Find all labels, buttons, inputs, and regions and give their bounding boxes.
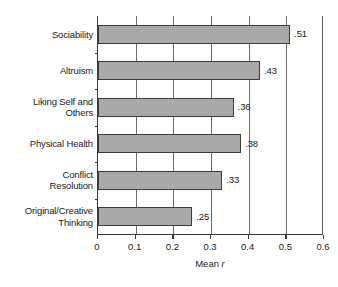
- x-axis-tick: [172, 235, 173, 239]
- bar-value-label: .36: [238, 103, 251, 113]
- bar-value-label: .33: [226, 176, 239, 186]
- category-tick: [95, 199, 99, 200]
- category-label-line: Resolution: [0, 180, 93, 192]
- scan-artifact: [0, 278, 338, 287]
- category-label-line: Others: [0, 107, 93, 119]
- category-tick: [95, 162, 99, 163]
- category-tick: [95, 89, 99, 90]
- x-axis-title: Mean r: [97, 258, 323, 269]
- category-label: Sociability: [0, 29, 93, 41]
- bar-row: .25: [98, 207, 322, 226]
- x-axis-tick: [210, 235, 211, 239]
- category-label-line: Altruism: [0, 65, 93, 77]
- x-axis-tick: [97, 235, 98, 239]
- category-label-line: Physical Health: [0, 138, 93, 150]
- x-axis-tick-label: 0: [94, 241, 99, 252]
- bar: [98, 134, 241, 153]
- x-axis-title-prefix: Mean: [195, 258, 221, 269]
- bar: [98, 207, 192, 226]
- bars-layer: .51.43.36.38.33.25: [98, 16, 322, 234]
- category-label: ConflictResolution: [0, 169, 93, 192]
- category-label-line: Original/Creative: [0, 205, 93, 217]
- x-axis-tick-label: 0.6: [316, 241, 329, 252]
- bar-chart: SociabilityAltruismLiking Self andOthers…: [0, 0, 338, 287]
- plot-area: .51.43.36.38.33.25: [97, 16, 323, 235]
- category-label-line: Liking Self and: [0, 96, 93, 108]
- x-axis-tick-label: 0.5: [279, 241, 292, 252]
- x-axis-tick: [135, 235, 136, 239]
- x-axis-tick-label: 0.4: [241, 241, 254, 252]
- bar-row: .38: [98, 134, 322, 153]
- bar-row: .33: [98, 171, 322, 190]
- bar: [98, 98, 234, 117]
- category-label-line: Thinking: [0, 217, 93, 229]
- x-axis-tick-label: 0.1: [128, 241, 141, 252]
- bar: [98, 171, 222, 190]
- x-axis-tick: [323, 235, 324, 239]
- x-axis-tick-label: 0.3: [203, 241, 216, 252]
- category-label-line: Sociability: [0, 29, 93, 41]
- x-axis-tick-label: 0.2: [166, 241, 179, 252]
- category-label: Altruism: [0, 65, 93, 77]
- bar: [98, 25, 290, 44]
- bar: [98, 61, 260, 80]
- category-tick: [95, 126, 99, 127]
- bar-value-label: .43: [264, 66, 277, 76]
- bar-row: .36: [98, 98, 322, 117]
- x-axis-title-italic: r: [222, 258, 225, 269]
- bar-value-label: .25: [196, 212, 209, 222]
- x-axis-tick: [248, 235, 249, 239]
- category-label: Original/CreativeThinking: [0, 205, 93, 228]
- bar-value-label: .38: [245, 139, 258, 149]
- category-label: Liking Self andOthers: [0, 96, 93, 119]
- category-label: Physical Health: [0, 138, 93, 150]
- x-axis-tick: [285, 235, 286, 239]
- bar-value-label: .51: [294, 30, 307, 40]
- category-tick: [95, 53, 99, 54]
- category-label-line: Conflict: [0, 169, 93, 181]
- bar-row: .51: [98, 25, 322, 44]
- category-axis-labels: SociabilityAltruismLiking Self andOthers…: [0, 16, 93, 235]
- bar-row: .43: [98, 61, 322, 80]
